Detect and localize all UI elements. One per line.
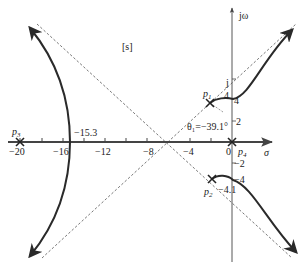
imag-tick-label: −2 [234,158,245,169]
real-tick-label: 0 [226,146,231,157]
crossing-upper-pre-label: 4 [224,90,229,101]
imag-tick-label: 4 [234,95,239,106]
imag-tick-label: 2 [236,116,241,127]
pole-label-p2: p2 [203,186,213,199]
asymptote-upper-right [40,22,294,24]
imag-axis-label: jω [238,10,249,21]
imag-axis [232,8,236,262]
real-tick-label: −20 [9,146,25,157]
departure-angle-label: θ₁=−39.1° [187,121,228,132]
root-locus-diagram: [s] jω σ j −20 −16 −12 −8 −4 0 4 2 −2 −4… [0,0,306,272]
real-tick-label: −4 [183,146,194,157]
pole-label-p3: p3 [11,126,21,139]
real-tick-label: −16 [53,146,69,157]
locus-branch-upper-left [30,28,70,142]
pole-p2-marker [208,175,216,183]
real-tick-label: −8 [143,146,154,157]
asymptotes [37,22,296,258]
real-axis-label: σ [264,147,270,158]
breakaway-label: −15.3 [74,127,97,138]
imag-marker-label: j [225,77,229,88]
crossing-lower-label: −4.1 [218,184,236,195]
locus-branch-lower-left [30,142,70,256]
plane-label: [s] [122,41,133,52]
real-tick-label: −12 [95,146,111,157]
